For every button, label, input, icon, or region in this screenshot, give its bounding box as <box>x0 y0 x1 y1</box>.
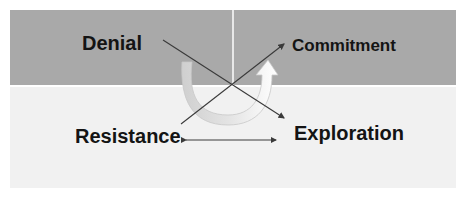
curved-u-arrow-icon <box>182 60 278 125</box>
label-denial: Denial <box>82 32 142 55</box>
label-resistance: Resistance <box>75 125 181 148</box>
label-exploration: Exploration <box>294 122 404 145</box>
label-commitment: Commitment <box>292 36 396 56</box>
connector-overlay <box>0 0 467 197</box>
